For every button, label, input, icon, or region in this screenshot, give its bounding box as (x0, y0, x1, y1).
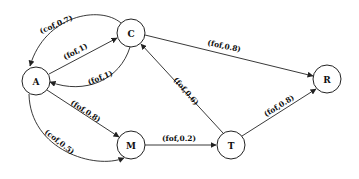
edge-label-t-r: (fof,0.8) (262, 93, 296, 119)
graph-diagram: (cof,0.7) (fof,1) (fof,1) (fof,0.8) (fof… (0, 0, 359, 179)
edge-label-c-a-cof: (cof,0.7) (38, 13, 74, 36)
edge-c-a-cof (30, 15, 121, 66)
node-r-label: R (323, 75, 331, 85)
edge-label-a-m-cof: (cof,0.5) (43, 127, 76, 156)
edge-c-r (145, 35, 313, 76)
node-c-label: C (127, 29, 134, 39)
node-c: C (117, 19, 145, 47)
node-t: T (217, 131, 245, 159)
edge-label-a-c-fof: (fof,1) (62, 42, 89, 62)
edge-t-r (242, 89, 316, 136)
node-m-label: M (126, 141, 136, 151)
edge-label-t-c: (fof,0.6) (171, 75, 200, 107)
edge-label-m-t: (fof,0.2) (162, 134, 196, 143)
node-r: R (313, 65, 341, 93)
node-a: A (22, 67, 50, 95)
node-a-label: A (32, 77, 41, 87)
node-m: M (117, 131, 145, 159)
edge-label-c-a-fof: (fof,1) (86, 69, 114, 87)
node-t-label: T (228, 141, 235, 151)
edge-label-a-m-fof: (fof,0.8) (69, 98, 102, 124)
